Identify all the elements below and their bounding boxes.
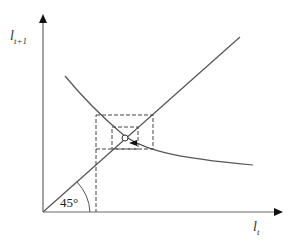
cobweb-diagram [0,0,297,249]
y-axis-label: lt+1 [10,28,27,46]
45-degree-line [43,37,240,212]
x-axis-arrow-icon [274,208,283,216]
angle-arc [77,182,90,212]
y-axis [39,14,47,212]
equilibrium-point [122,135,128,141]
x-axis [43,208,283,216]
x-axis-label: lt [253,219,259,237]
y-axis-arrow-icon [39,14,47,23]
angle-label: 45° [60,195,78,211]
outer-dashed-rectangle [96,115,153,149]
downward-curve [65,76,253,165]
